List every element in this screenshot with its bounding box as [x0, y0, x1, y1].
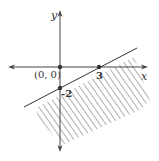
graph-canvas: [0, 0, 159, 161]
x-intercept-label: 3: [96, 71, 103, 81]
y-axis-label: y: [51, 10, 57, 21]
origin-label: (0, 0): [34, 70, 61, 80]
point-x-intercept: [97, 65, 101, 69]
y-intercept-label: -2: [61, 89, 72, 99]
x-axis-label: x: [141, 71, 147, 82]
